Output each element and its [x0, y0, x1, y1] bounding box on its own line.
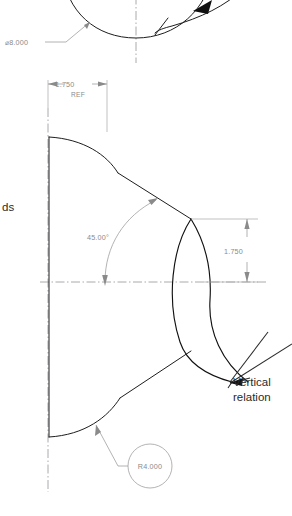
vertical-relation-label-line1: Vertical — [233, 376, 271, 388]
diameter-leader-line — [45, 22, 90, 42]
profile-lower-diagonal — [120, 351, 191, 398]
radius-leader-line — [96, 425, 128, 466]
profile-lower-arc — [49, 398, 120, 437]
angle-dimension-group: 45.00° — [87, 198, 158, 286]
clipped-left-annotation: ds — [2, 201, 14, 213]
technical-drawing-canvas: ⌀8.000 1.750 REF — [0, 0, 292, 516]
radius-leader-arrowhead — [95, 425, 101, 436]
angle-dimension-value: 45.00° — [87, 233, 109, 242]
height-dimension-group: 1.750 — [191, 219, 258, 282]
height-dim-arrow-bottom — [244, 272, 249, 282]
width-dimension-group: 1.750 REF — [48, 80, 107, 132]
bottom-view-group: 1.750 REF 45.00° — [2, 80, 292, 492]
loop-curve-outer — [191, 219, 248, 382]
height-dimension-value: 1.750 — [224, 247, 243, 256]
vertical-relation-leader-upper — [230, 332, 268, 382]
radius-callout-group: R4.000 — [95, 425, 172, 488]
diameter-dimension-label: ⌀8.000 — [5, 38, 28, 47]
height-dim-arrow-top — [244, 219, 249, 229]
top-view-group: ⌀8.000 — [5, 0, 244, 63]
profile-upper-arc — [49, 137, 118, 173]
angle-dim-arrow-bottom — [102, 275, 108, 286]
angle-dimension-arc — [105, 200, 156, 282]
top-view-circle-arc — [62, 0, 214, 38]
vertical-relation-label-line2: relation — [233, 391, 271, 403]
width-dim-arrow-right — [98, 82, 107, 87]
diameter-leader-arrowhead — [84, 22, 90, 29]
vertical-relation-annotation: Vertical relation — [228, 332, 292, 403]
radius-callout-label: R4.000 — [138, 462, 162, 471]
width-dimension-value: 1.750 — [56, 80, 75, 89]
width-dimension-qualifier: REF — [71, 91, 85, 98]
profile-upper-diagonal — [118, 173, 191, 219]
